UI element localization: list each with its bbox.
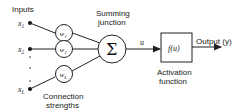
summing-junction-label-2: junction [97,18,126,27]
svg-text:x1: x1 [17,19,25,29]
input-x2: x2 [17,45,32,55]
sigma-icon: Σ [106,40,117,59]
signal-u-label: u [140,38,144,47]
neuron-diagram-svg: Inputs x1 x2 xL w1 w2 [0,0,244,112]
output-label: Output (y) [196,37,232,46]
weight-w1: w1 [56,25,73,42]
input-x1: x1 [17,19,32,29]
svg-text:xL: xL [17,85,25,95]
activation-function-text: f(u) [168,44,180,53]
activation-function-label-2: function [159,77,187,86]
inputs-label: Inputs [12,5,34,14]
connection-strengths-label-2: strengths [46,101,79,110]
activation-function-box: f(u) [161,33,192,62]
weight-w2: w2 [56,41,73,58]
connection-strengths-label-1: Connection [43,92,83,101]
summing-junction: Σ [98,35,126,63]
input-xL: xL [17,85,32,95]
svg-text:x2: x2 [17,45,25,55]
input-ellipsis [29,56,31,82]
activation-function-label-1: Activation [157,68,192,77]
summing-junction-label-1: Summing [96,9,130,18]
weight-wL: wL [56,66,73,83]
neuron-diagram: Inputs x1 x2 xL w1 w2 [0,0,244,112]
